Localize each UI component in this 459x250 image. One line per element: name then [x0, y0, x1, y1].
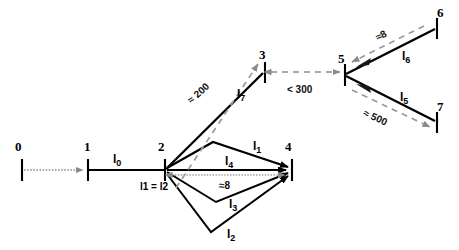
- arrowhead-toward-5-lower: [356, 84, 371, 93]
- node-label-2: 2: [158, 140, 165, 153]
- node-label-4: 4: [285, 140, 292, 153]
- edge-l5: [346, 76, 435, 121]
- path-label-l6: l6: [402, 50, 410, 65]
- path-label-l2-sub: 2: [230, 233, 235, 243]
- node-label-6: 6: [437, 6, 444, 19]
- path-label-l0: l0: [113, 153, 121, 168]
- path-label-l0-sub: 0: [116, 158, 121, 168]
- path-label-l4: l4: [225, 155, 233, 170]
- node-label-5: 5: [338, 52, 345, 65]
- dimension-label-300: < 300: [287, 85, 312, 95]
- path-label-l6-sub: 6: [405, 55, 410, 65]
- diagram-canvas: 0 1 2 3 4 5 6 7 l0 l1 l2 l3 l4 l5 l6 l7 …: [0, 0, 459, 250]
- dimension-label-8-lower: ≈8: [219, 181, 230, 191]
- equality-label-l1-l2: l1 = l2: [140, 182, 168, 192]
- dim-arrow-8-upper: [352, 26, 424, 62]
- path-label-l3: l3: [229, 198, 237, 213]
- node-label-7: 7: [437, 100, 444, 113]
- branch-direction-arrows: [356, 58, 371, 93]
- path-label-l4-sub: 4: [228, 160, 233, 170]
- path-label-l5-sub: 5: [403, 96, 408, 106]
- node-label-3: 3: [259, 48, 266, 61]
- arrowhead-toward-5-upper: [356, 58, 371, 67]
- dim-arrow-500: [352, 90, 430, 127]
- path-label-l7-sub: 7: [240, 93, 245, 103]
- path-label-l1-sub: 1: [256, 145, 261, 155]
- path-label-l3-sub: 3: [232, 203, 237, 213]
- edge-l6: [346, 29, 435, 74]
- path-label-l7: l7: [237, 88, 245, 103]
- node-label-0: 0: [15, 140, 22, 153]
- path-label-l2: l2: [227, 228, 235, 243]
- path-label-l1: l1: [253, 140, 261, 155]
- path-label-l5: l5: [400, 91, 408, 106]
- node-label-1: 1: [84, 140, 91, 153]
